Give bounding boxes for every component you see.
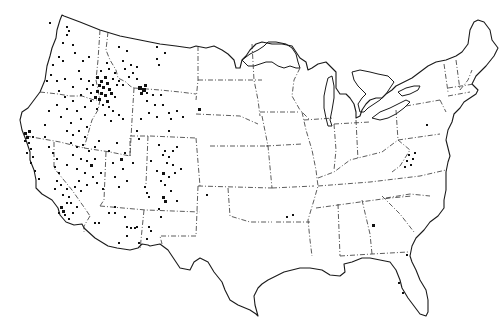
state-boundaries xyxy=(26,30,474,256)
point-markers xyxy=(24,22,428,294)
us-map xyxy=(0,0,504,332)
lake-ontario xyxy=(398,86,420,96)
lake-huron xyxy=(352,70,394,112)
lake-erie xyxy=(372,100,410,120)
